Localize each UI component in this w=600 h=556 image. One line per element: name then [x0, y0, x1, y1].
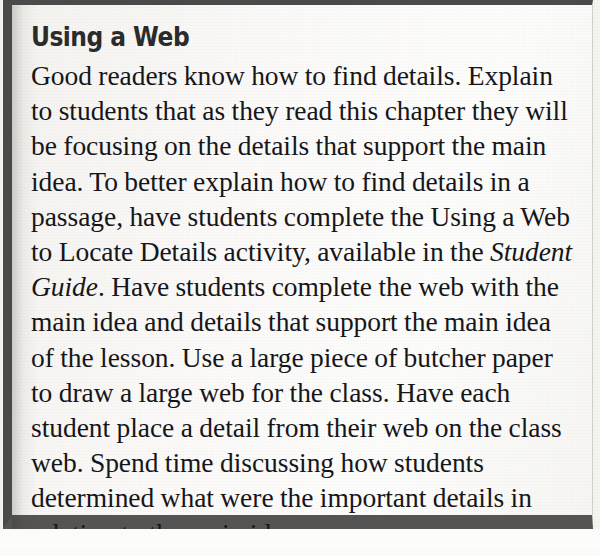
- callout-heading: Using a Web: [31, 22, 520, 52]
- callout-box: Using a Web Good readers know how to fin…: [3, 0, 593, 529]
- callout-content: Using a Web Good readers know how to fin…: [31, 22, 574, 551]
- page-margin-below-callout: [0, 529, 600, 556]
- scanned-page: Using a Web Good readers know how to fin…: [0, 0, 600, 556]
- paragraph-text-part-2: . Have students complete the web with th…: [31, 271, 562, 548]
- callout-paragraph: Good readers know how to find details. E…: [31, 58, 574, 551]
